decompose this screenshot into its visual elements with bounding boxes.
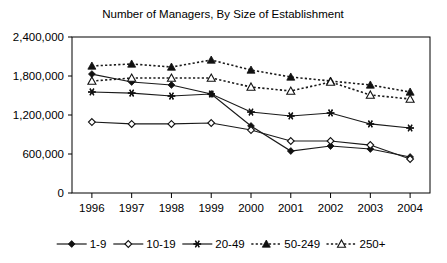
y-axis-tick-marks (68, 37, 72, 193)
data-point-250+-1999 (207, 74, 215, 81)
x-tick-label-2004: 2004 (397, 202, 423, 214)
data-point-20-49-2002 (327, 110, 335, 117)
data-point-50-249-1996 (88, 62, 96, 69)
y-axis-tick-labels: 0600,0001,200,0001,800,0002,400,000 (13, 31, 64, 199)
data-point-20-49-1996 (88, 89, 96, 96)
data-point-20-49-2004 (406, 125, 414, 132)
legend-item-50-249[interactable]: 50-249 (251, 238, 320, 250)
legend-item-10-19[interactable]: 10-19 (113, 238, 175, 250)
x-tick-label-1996: 1996 (79, 202, 105, 214)
y-tick-label: 0 (58, 187, 64, 199)
data-point-20-49-1997 (128, 90, 136, 97)
legend-marker-20-49 (194, 241, 202, 248)
chart-container: Number of Managers, By Size of Establish… (0, 0, 447, 263)
x-tick-label-1998: 1998 (159, 202, 185, 214)
x-tick-label-1999: 1999 (198, 202, 224, 214)
data-point-20-49-1998 (168, 93, 176, 100)
data-point-50-249-2000 (247, 66, 255, 73)
x-tick-label-2003: 2003 (358, 202, 384, 214)
x-tick-label-2002: 2002 (318, 202, 344, 214)
chart-title: Number of Managers, By Size of Establish… (102, 8, 344, 20)
legend-label-50-249: 50-249 (284, 238, 320, 250)
managers-line-chart: Number of Managers, By Size of Establish… (0, 0, 447, 263)
data-point-250+-2004 (406, 95, 414, 102)
series-250+ (88, 74, 414, 102)
data-point-250+-2003 (366, 91, 374, 98)
x-tick-label-2001: 2001 (278, 202, 304, 214)
x-tick-label-1997: 1997 (119, 202, 145, 214)
legend-label-1-9: 1-9 (90, 238, 107, 250)
data-point-10-19-1997 (128, 121, 135, 128)
y-tick-label: 600,000 (22, 148, 64, 160)
x-axis-tick-labels: 199619971998199920002001200220032004 (79, 202, 423, 214)
data-point-20-49-2001 (287, 113, 295, 120)
legend-item-250+[interactable]: 250+ (327, 238, 386, 250)
data-series-group (88, 56, 414, 162)
y-tick-label: 1,800,000 (13, 70, 64, 82)
chart-legend: 1-910-1920-4950-249250+ (57, 238, 386, 250)
legend-item-1-9[interactable]: 1-9 (57, 238, 107, 250)
legend-marker-1-9 (68, 241, 75, 248)
y-tick-label: 2,400,000 (13, 31, 64, 43)
data-point-1-9-1998 (168, 82, 175, 89)
data-point-10-19-1998 (168, 121, 175, 128)
data-point-1-9-2001 (287, 148, 294, 155)
data-point-50-249-1999 (207, 56, 215, 63)
x-axis-tick-marks (92, 193, 410, 198)
plot-area-frame (72, 37, 430, 193)
legend-item-20-49[interactable]: 20-49 (182, 238, 244, 250)
legend-label-10-19: 10-19 (146, 238, 175, 250)
legend-label-250+: 250+ (360, 238, 386, 250)
data-point-10-19-1999 (208, 120, 215, 127)
data-point-20-49-2003 (367, 121, 375, 128)
y-tick-label: 1,200,000 (13, 109, 64, 121)
data-point-10-19-2002 (327, 138, 334, 145)
data-point-250+-1996 (88, 77, 96, 84)
data-point-10-19-2001 (287, 138, 294, 145)
x-tick-label-2000: 2000 (238, 202, 264, 214)
legend-marker-10-19 (125, 241, 132, 248)
data-point-10-19-1996 (88, 119, 95, 126)
data-point-20-49-2000 (247, 109, 255, 116)
legend-label-20-49: 20-49 (215, 238, 244, 250)
